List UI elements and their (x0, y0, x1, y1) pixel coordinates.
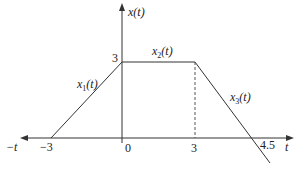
segment-label-x3: x3(t) (229, 90, 251, 106)
signal-waveform (51, 62, 270, 163)
x-tick-neg3: −3 (40, 140, 53, 154)
x-axis-label-right: t (285, 140, 289, 154)
x-tick-3: 3 (191, 141, 197, 155)
segment-label-x1: x1(t) (76, 77, 98, 93)
x-axis-label-left: −t (6, 140, 18, 154)
left-arrow-icon (20, 135, 28, 141)
up-arrow-icon (119, 3, 125, 11)
segment-label-x2: x2(t) (151, 44, 173, 60)
x-tick-4-5: 4.5 (260, 138, 275, 152)
signal-diagram: x(t) 3 −t −3 0 3 4.5 t x1(t) x2(t) x3(t) (0, 0, 305, 174)
y-axis (119, 3, 125, 143)
y-axis-label: x(t) (127, 5, 145, 19)
y-tick-3: 3 (112, 51, 118, 65)
x-tick-0: 0 (125, 141, 131, 155)
